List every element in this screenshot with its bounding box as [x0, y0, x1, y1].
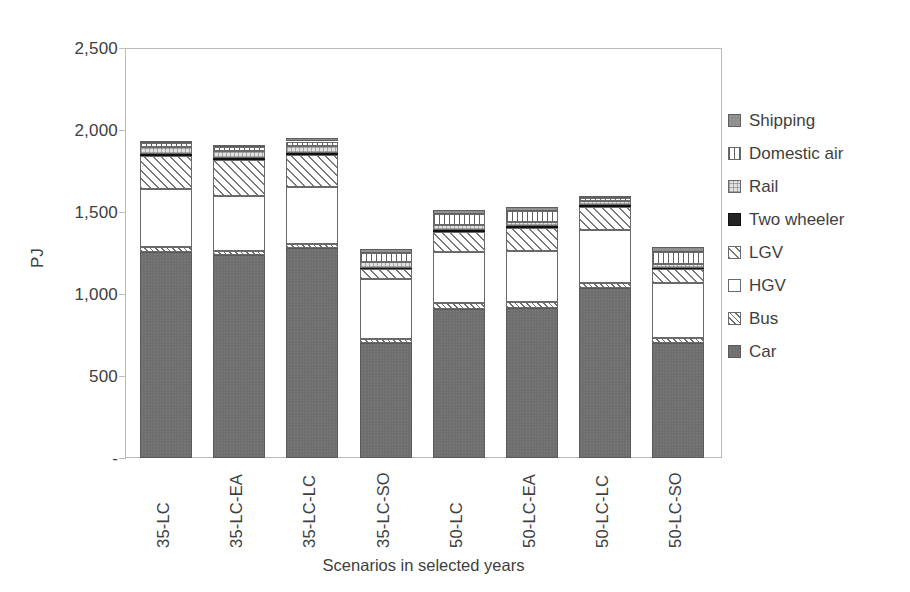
bar-50-lc-lc[interactable] — [579, 196, 631, 458]
bar-segment-rail[interactable] — [433, 225, 485, 230]
bar-segment-bus[interactable] — [579, 283, 631, 288]
bar-segment-shipping[interactable] — [213, 145, 265, 147]
bar-segment-lgv[interactable] — [433, 232, 485, 253]
x-axis: 35-LC35-LC-EA35-LC-LC35-LC-SO50-LC50-LC-… — [125, 462, 722, 548]
bar-segment-bus[interactable] — [213, 251, 265, 256]
bar-segment-lgv[interactable] — [213, 160, 265, 195]
shipping-swatch-icon — [728, 114, 741, 127]
domestic-air-swatch-icon — [728, 147, 741, 160]
legend-item[interactable]: LGV — [728, 236, 903, 269]
bar-segment-car[interactable] — [213, 255, 265, 458]
y-tick-label: 500 — [6, 368, 118, 385]
legend-item[interactable]: Bus — [728, 302, 903, 335]
x-tick-label: 50-LC-EA — [520, 474, 539, 548]
bar-segment-domestic-air[interactable] — [286, 142, 338, 147]
bar-segment-bus[interactable] — [286, 244, 338, 248]
two-wheeler-swatch-icon — [728, 213, 741, 226]
bar-segment-car[interactable] — [579, 288, 631, 458]
bar-segment-domestic-air[interactable] — [140, 143, 192, 147]
x-axis-title: Scenarios in selected years — [125, 556, 722, 575]
bar-segment-domestic-air[interactable] — [433, 214, 485, 225]
bus-swatch-icon — [728, 312, 741, 325]
x-tick-label: 50-LC-LC — [593, 475, 612, 548]
bar-segment-car[interactable] — [652, 343, 704, 458]
bar-segment-shipping[interactable] — [286, 138, 338, 141]
legend-item[interactable]: Rail — [728, 170, 903, 203]
bar-segment-bus[interactable] — [360, 339, 412, 343]
bar-segment-rail[interactable] — [213, 151, 265, 158]
bar-35-lc-ea[interactable] — [213, 145, 265, 458]
bar-segment-hgv[interactable] — [286, 187, 338, 244]
x-tick-label: 35-LC-SO — [374, 472, 393, 548]
bar-segment-bus[interactable] — [140, 247, 192, 252]
bar-segment-domestic-air[interactable] — [579, 198, 631, 201]
bar-segment-car[interactable] — [140, 252, 192, 458]
y-tick-label: 1,500 — [6, 204, 118, 221]
legend-label: Bus — [749, 310, 778, 327]
legend-label: Car — [749, 343, 776, 360]
bar-segment-shipping[interactable] — [140, 141, 192, 143]
x-tick-label: 50-LC-SO — [666, 472, 685, 548]
bar-segment-rail[interactable] — [506, 222, 558, 226]
bar-segment-car[interactable] — [286, 248, 338, 458]
bar-segment-shipping[interactable] — [579, 196, 631, 198]
bar-segment-hgv[interactable] — [579, 230, 631, 283]
bar-segment-lgv[interactable] — [506, 228, 558, 251]
bar-50-lc-ea[interactable] — [506, 207, 558, 458]
bar-segment-hgv[interactable] — [506, 251, 558, 303]
x-tick-label: 35-LC-EA — [227, 474, 246, 548]
bar-segment-lgv[interactable] — [140, 156, 192, 189]
bar-segment-two-wheeler[interactable] — [286, 153, 338, 155]
bar-50-lc-so[interactable] — [652, 247, 704, 458]
x-tick-label: 35-LC-LC — [300, 475, 319, 548]
bar-segment-shipping[interactable] — [652, 247, 704, 252]
legend: ShippingDomestic airRailTwo wheelerLGVHG… — [728, 104, 903, 368]
bar-segment-car[interactable] — [360, 343, 412, 458]
bar-segment-domestic-air[interactable] — [506, 211, 558, 222]
legend-item[interactable]: Car — [728, 335, 903, 368]
legend-label: HGV — [749, 277, 786, 294]
bar-segment-car[interactable] — [506, 308, 558, 458]
bar-segment-shipping[interactable] — [506, 207, 558, 211]
legend-label: Domestic air — [749, 145, 843, 162]
bar-segment-lgv[interactable] — [286, 155, 338, 187]
bar-50-lc[interactable] — [433, 210, 485, 458]
bar-segment-rail[interactable] — [579, 201, 631, 205]
bar-segment-domestic-air[interactable] — [213, 147, 265, 151]
bar-segment-hgv[interactable] — [360, 279, 412, 339]
bar-segment-domestic-air[interactable] — [360, 253, 412, 262]
bar-35-lc-lc[interactable] — [286, 138, 338, 458]
legend-item[interactable]: Two wheeler — [728, 203, 903, 236]
bar-segment-rail[interactable] — [652, 264, 704, 268]
bar-segment-bus[interactable] — [652, 338, 704, 343]
bar-segment-shipping[interactable] — [433, 210, 485, 214]
bar-segment-hgv[interactable] — [140, 189, 192, 247]
bar-segment-two-wheeler[interactable] — [213, 158, 265, 160]
y-tick-label: - — [6, 450, 118, 467]
legend-item[interactable]: Shipping — [728, 104, 903, 137]
bar-segment-rail[interactable] — [360, 262, 412, 268]
bar-segment-domestic-air[interactable] — [652, 252, 704, 263]
stacked-bar-chart: -5001,0001,5002,0002,500 PJ 35-LC35-LC-E… — [0, 0, 910, 592]
bar-segment-hgv[interactable] — [652, 283, 704, 338]
bar-segment-bus[interactable] — [433, 303, 485, 309]
x-tick-label: 35-LC — [154, 502, 173, 548]
bar-segment-lgv[interactable] — [360, 269, 412, 279]
legend-label: Two wheeler — [749, 211, 844, 228]
bar-segment-rail[interactable] — [140, 147, 192, 154]
bar-segment-lgv[interactable] — [652, 269, 704, 283]
bar-segment-shipping[interactable] — [360, 249, 412, 253]
bar-segment-hgv[interactable] — [213, 196, 265, 251]
bar-35-lc[interactable] — [140, 141, 192, 458]
bar-segment-hgv[interactable] — [433, 252, 485, 303]
bar-35-lc-so[interactable] — [360, 249, 412, 458]
legend-item[interactable]: HGV — [728, 269, 903, 302]
y-tick-label: 2,000 — [6, 122, 118, 139]
bar-segment-lgv[interactable] — [579, 207, 631, 230]
bar-segment-car[interactable] — [433, 309, 485, 458]
bar-segment-two-wheeler[interactable] — [140, 154, 192, 156]
bar-segment-rail[interactable] — [286, 146, 338, 153]
bar-segment-bus[interactable] — [506, 302, 558, 308]
legend-item[interactable]: Domestic air — [728, 137, 903, 170]
y-tick-label: 2,500 — [6, 40, 118, 57]
